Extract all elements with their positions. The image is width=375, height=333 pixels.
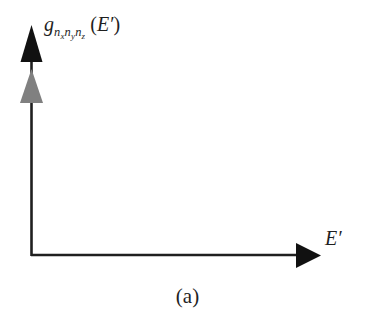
figure-panel-a: gnxnynz(E′) E′ (a) <box>0 0 375 333</box>
y-axis-paren-open: ( <box>90 13 97 35</box>
y-axis-argument: (E′) <box>90 13 120 35</box>
delta-peak-upper-arrowhead-icon <box>21 25 43 62</box>
y-axis-subscript: nxnynz <box>54 25 85 39</box>
x-axis-symbol: E <box>325 227 337 249</box>
figure-caption: (a) <box>0 286 375 307</box>
y-axis-label: gnxnynz(E′) <box>44 14 120 41</box>
y-axis-argument-symbol: E <box>97 13 109 35</box>
y-axis-function-symbol: g <box>44 13 54 35</box>
x-axis-prime: ′ <box>337 227 341 249</box>
y-axis-subscript-z: z <box>82 31 86 41</box>
y-axis-paren-close: ) <box>113 13 120 35</box>
x-axis-label: E′ <box>325 228 342 248</box>
x-axis-arrowhead-icon <box>296 243 321 268</box>
delta-peak-lower-arrowhead-icon <box>20 69 43 103</box>
